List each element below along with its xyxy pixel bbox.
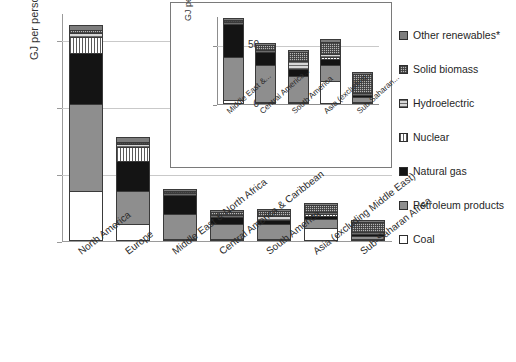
y-tick-mark [57,242,62,243]
bar-segment-nuclear [69,37,103,54]
bar-segment-nuclear [116,147,150,160]
bar-segment-natural-gas [69,53,103,103]
legend-item[interactable]: Petroleum products [399,188,515,222]
bar-north-america[interactable] [69,25,103,241]
inset-y-tick-mark [213,105,217,106]
y-tick-mark [57,41,62,42]
hydro-swatch [399,99,408,108]
nuclear-swatch [399,133,408,142]
inset-bar-middle-east[interactable] [223,18,244,104]
y-tick-mark [57,175,62,176]
legend-item[interactable]: Hydroelectric [399,86,515,120]
bar-segment-natural-gas [163,195,197,214]
legend-item[interactable]: Nuclear [399,120,515,154]
bar-segment-natural-gas [116,161,150,191]
petroleum-swatch [399,201,408,210]
legend-item[interactable]: Other renewables* [399,18,515,52]
legend-item-label: Coal [413,233,435,245]
legend-item[interactable]: Solid biomass [399,52,515,86]
legend-item[interactable]: Natural gas [399,154,515,188]
bar-segment-solid-biomass [304,205,338,212]
legend-item-label: Solid biomass [413,63,478,75]
legend-item[interactable]: Coal [399,222,515,256]
bar-segment-petroleum [69,104,103,191]
renewables-swatch [399,31,408,40]
inset-y-tick-mark [213,46,217,47]
legend-item-label: Other renewables* [413,29,500,41]
chart-legend: Other renewables*Solid biomassHydroelect… [399,18,515,256]
coal-swatch [399,235,408,244]
legend-item-label: Petroleum products [413,199,504,211]
legend-item-label: Nuclear [413,131,449,143]
inset-y-axis-line [217,17,218,105]
inset-bar-segment-solid-biomass [320,42,341,54]
gas-swatch [399,167,408,176]
gridline [62,175,392,176]
legend-item-label: Natural gas [413,165,467,177]
inset-bar-segment-solid-biomass [288,52,309,60]
inset-bar-segment-natural-gas [255,52,276,65]
energy-mix-stacked-bar-figure: GJ per person-year 0100200300 North Amer… [0,0,516,362]
y-tick-mark [57,108,62,109]
inset-chart-panel: GJ per person-year 050 Middle East &...C… [170,2,392,168]
inset-bar-segment-natural-gas [223,24,244,57]
main-y-axis-line [62,14,63,242]
main-y-axis-label: GJ per person-year [28,0,40,60]
inset-y-axis-label: GJ per person-year [183,0,193,21]
biomass-swatch [399,65,408,74]
legend-item-label: Hydroelectric [413,97,474,109]
inset-plot-area: 050 Middle East &...Central America...So… [217,17,379,105]
